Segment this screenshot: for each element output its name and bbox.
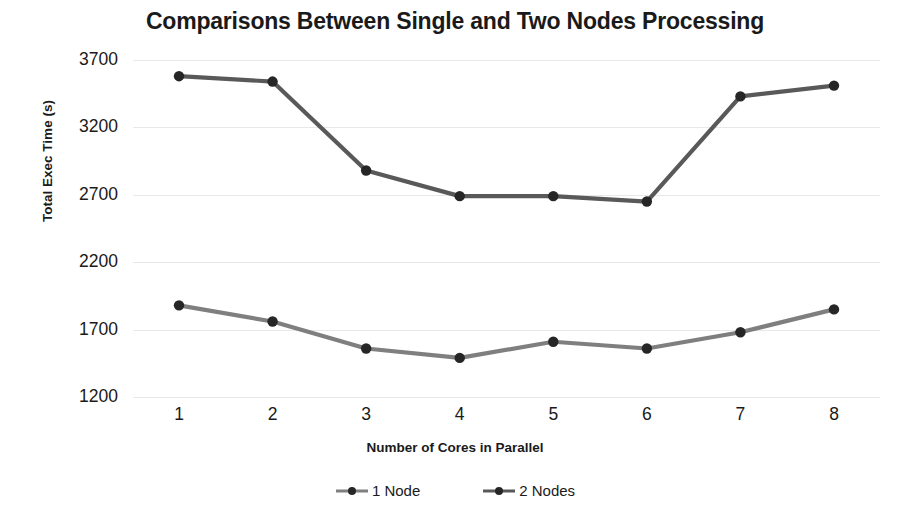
x-tick-label: 7 — [710, 404, 770, 425]
legend-item[interactable]: 2 Nodes — [482, 482, 575, 499]
data-point-marker — [455, 353, 465, 363]
x-tick-label: 6 — [617, 404, 677, 425]
y-tick-label: 3200 — [8, 116, 118, 137]
data-point-marker — [829, 80, 839, 90]
legend-label: 2 Nodes — [519, 482, 575, 499]
y-tick-label: 3700 — [8, 49, 118, 70]
x-axis-tick-labels: 12345678 — [133, 404, 880, 430]
chart-legend: 1 Node2 Nodes — [0, 482, 910, 499]
data-point-marker — [267, 76, 277, 86]
data-point-marker — [548, 191, 558, 201]
data-point-marker — [174, 71, 184, 81]
data-point-marker — [174, 300, 184, 310]
legend-label: 1 Node — [372, 482, 420, 499]
y-tick-label: 2200 — [8, 251, 118, 272]
data-point-marker — [361, 165, 371, 175]
x-tick-label: 8 — [804, 404, 864, 425]
data-point-marker — [267, 316, 277, 326]
plot-area — [133, 60, 880, 397]
data-point-marker — [829, 304, 839, 314]
chart-container: Comparisons Between Single and Two Nodes… — [0, 0, 910, 517]
legend-marker-icon — [335, 485, 369, 497]
legend-marker-icon — [482, 485, 516, 497]
data-point-marker — [361, 343, 371, 353]
data-point-marker — [735, 327, 745, 337]
data-point-marker — [548, 337, 558, 347]
series-lines — [133, 60, 880, 397]
x-axis-title: Number of Cores in Parallel — [0, 440, 910, 455]
x-tick-label: 4 — [430, 404, 490, 425]
y-tick-label: 1700 — [8, 319, 118, 340]
x-tick-label: 1 — [149, 404, 209, 425]
y-tick-label: 1200 — [8, 386, 118, 407]
x-tick-label: 5 — [523, 404, 583, 425]
data-point-marker — [735, 91, 745, 101]
data-point-marker — [642, 196, 652, 206]
data-point-marker — [642, 343, 652, 353]
y-tick-label: 2700 — [8, 184, 118, 205]
chart-title: Comparisons Between Single and Two Nodes… — [0, 8, 910, 35]
x-tick-label: 3 — [336, 404, 396, 425]
x-tick-label: 2 — [243, 404, 303, 425]
gridline — [133, 397, 880, 398]
legend-item[interactable]: 1 Node — [335, 482, 420, 499]
data-point-marker — [455, 191, 465, 201]
